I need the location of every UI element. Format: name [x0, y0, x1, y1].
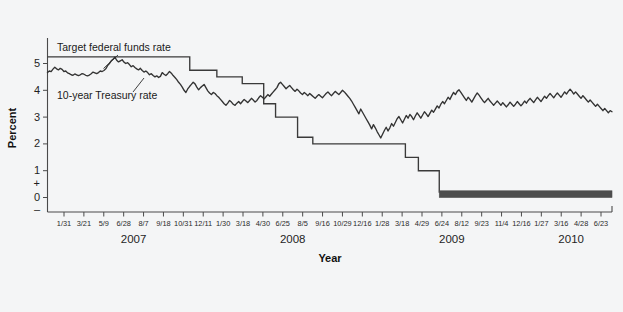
y-tick-label: 1: [34, 164, 40, 176]
x-year-group-label: 2010: [558, 233, 584, 245]
y-tick-label: 0: [34, 191, 40, 203]
x-tick-label: 8/7: [138, 219, 148, 228]
x-year-group-label: 2008: [280, 233, 306, 245]
y-tick-label: 4: [34, 84, 40, 96]
x-tick-label: 4/30: [256, 219, 270, 228]
x-tick-label: 6/23: [594, 219, 608, 228]
x-tick-label: 8/12: [455, 219, 469, 228]
x-tick-label: 4/28: [574, 219, 588, 228]
x-tick-label: 6/28: [116, 219, 130, 228]
x-tick-label: 1/28: [375, 219, 389, 228]
x-tick-label: 3/18: [395, 219, 409, 228]
annotation-10-year-treasury-rate: 10-year Treasury rate: [57, 89, 158, 101]
x-tick-label: 5/9: [99, 219, 109, 228]
y-tick-label: 5: [34, 57, 40, 69]
x-tick-label: 1/30: [216, 219, 230, 228]
x-tick-label: 9/23: [474, 219, 488, 228]
x-tick-label: 9/18: [156, 219, 170, 228]
x-axis-title: Year: [318, 252, 342, 264]
y-tick-label: –: [34, 203, 41, 215]
y-axis-title: Percent: [6, 107, 18, 148]
fed-funds-treasury-line-chart: 54321+0– 1/313/215/96/288/79/1810/3112/1…: [0, 0, 623, 312]
x-tick-label: 1/27: [534, 219, 548, 228]
y-tick-label: +: [34, 177, 40, 189]
x-tick-label: 12/16: [512, 219, 531, 228]
x-tick-label: 4/29: [415, 219, 429, 228]
x-tick-label: 10/29: [333, 219, 352, 228]
x-tick-label: 3/16: [554, 219, 568, 228]
annotation-target-federal-funds-rate: Target federal funds rate: [57, 41, 171, 53]
x-year-group-label: 2009: [439, 233, 465, 245]
x-tick-label: 1/31: [57, 219, 71, 228]
x-tick-label: 10/31: [174, 219, 193, 228]
y-tick-label: 2: [34, 137, 40, 149]
x-tick-label: 8/5: [298, 219, 308, 228]
x-tick-label: 11/4: [495, 219, 509, 228]
x-tick-label: 3/18: [236, 219, 250, 228]
x-tick-label: 12/11: [194, 219, 212, 228]
x-year-group-label: 2007: [121, 233, 147, 245]
fed-funds-target-band: [439, 191, 612, 198]
x-tick-label: 3/21: [77, 219, 91, 228]
x-tick-label: 6/25: [276, 219, 290, 228]
x-tick-label: 9/16: [315, 219, 329, 228]
x-tick-label: 6/24: [435, 219, 449, 228]
y-tick-label: 3: [34, 111, 40, 123]
x-tick-label: 12/16: [353, 219, 372, 228]
figure-container: 54321+0– 1/313/215/96/288/79/1810/3112/1…: [0, 0, 623, 312]
